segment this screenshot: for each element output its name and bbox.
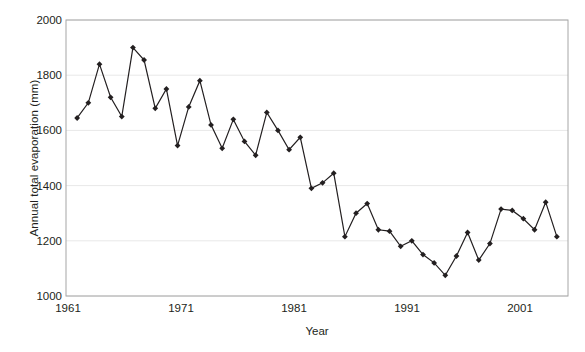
- data-point-1963: [97, 61, 103, 67]
- data-point-1972: [197, 78, 203, 84]
- data-point-1964: [108, 94, 114, 100]
- data-point-2004: [554, 234, 560, 240]
- data-point-1982: [309, 185, 315, 191]
- data-point-1974: [219, 145, 225, 151]
- plot-border: [66, 20, 568, 296]
- data-point-1999: [498, 206, 504, 212]
- data-point-1968: [152, 105, 158, 111]
- data-point-1995: [454, 253, 460, 259]
- series-markers: [74, 45, 559, 279]
- gridlines: [66, 20, 568, 296]
- data-point-1973: [208, 122, 214, 128]
- data-point-1996: [465, 230, 471, 236]
- data-point-2003: [543, 199, 549, 205]
- data-point-1971: [186, 104, 192, 110]
- plot-area: [0, 0, 585, 352]
- data-point-1985: [342, 234, 348, 240]
- data-point-1988: [375, 227, 381, 233]
- data-point-1969: [164, 86, 170, 92]
- data-point-1975: [230, 116, 236, 122]
- data-point-1978: [264, 110, 270, 116]
- evaporation-line-chart: Annual total evaporation (mm) 1000 1200 …: [0, 0, 585, 352]
- data-point-1965: [119, 114, 125, 120]
- data-point-1979: [275, 128, 281, 134]
- data-point-1970: [175, 143, 181, 149]
